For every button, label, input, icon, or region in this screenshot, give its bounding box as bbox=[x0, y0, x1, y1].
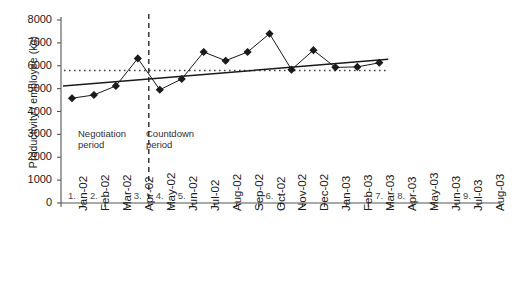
event-marker-7: 7. bbox=[375, 190, 383, 201]
event-marker-6: 6. bbox=[266, 190, 274, 201]
annotation-line-1: Countdown bbox=[146, 128, 194, 139]
data-point-marker bbox=[69, 95, 76, 102]
x-tick-label: Feb-03 bbox=[362, 175, 374, 211]
event-marker-8: 8. bbox=[397, 190, 405, 201]
x-tick-label: Jun-02 bbox=[187, 176, 199, 211]
annotation-line-1: Negotiation bbox=[78, 128, 126, 139]
x-tick-label: Jan-02 bbox=[77, 176, 89, 211]
x-tick-label: May-03 bbox=[428, 173, 440, 211]
event-marker-9: 9. bbox=[463, 190, 471, 201]
annotation-line-2: period bbox=[78, 139, 126, 150]
event-marker-1: 1. bbox=[68, 190, 76, 201]
x-tick-label: Aug-02 bbox=[231, 174, 243, 211]
event-marker-2: 2. bbox=[90, 190, 98, 201]
data-point-marker bbox=[156, 86, 163, 93]
y-tick-label: 5000 bbox=[8, 82, 52, 94]
y-tick-label: 0 bbox=[8, 196, 52, 208]
x-tick-label: Dec-02 bbox=[318, 174, 330, 211]
chart-figure: Productivity / employee (kg) 01000200030… bbox=[0, 0, 520, 288]
x-tick-label: Mar-02 bbox=[121, 175, 133, 211]
y-tick-label: 7000 bbox=[8, 36, 52, 48]
y-tick-label: 1000 bbox=[8, 173, 52, 185]
x-tick-label: Jul-02 bbox=[209, 180, 221, 211]
annotation-line-2: period bbox=[146, 139, 194, 150]
x-tick-label: Feb-02 bbox=[99, 175, 111, 211]
y-tick-label: 6000 bbox=[8, 59, 52, 71]
x-tick-label: Mar-03 bbox=[384, 175, 396, 211]
x-tick-label: Oct-02 bbox=[275, 176, 287, 211]
y-tick-label: 8000 bbox=[8, 13, 52, 25]
y-tick-label: 2000 bbox=[8, 150, 52, 162]
annotation-negotiation: Negotiationperiod bbox=[78, 128, 126, 150]
x-tick-label: Apr-03 bbox=[406, 176, 418, 211]
y-tick-label: 3000 bbox=[8, 127, 52, 139]
event-marker-4: 4. bbox=[156, 190, 164, 201]
x-tick-label: Sep-02 bbox=[253, 174, 265, 211]
data-point-marker bbox=[222, 57, 229, 64]
x-tick-label: Jan-03 bbox=[340, 176, 352, 211]
y-tick-label: 4000 bbox=[8, 105, 52, 117]
x-tick-label: Jul-03 bbox=[472, 180, 484, 211]
x-tick-label: Jun-03 bbox=[450, 176, 462, 211]
event-marker-3: 3. bbox=[134, 190, 142, 201]
data-point-marker bbox=[354, 64, 361, 71]
x-tick-label: Nov-02 bbox=[296, 174, 308, 211]
x-tick-label: Apr-02 bbox=[143, 176, 155, 211]
data-point-marker bbox=[91, 92, 98, 99]
x-tick-label: Aug-03 bbox=[494, 174, 506, 211]
event-marker-5: 5. bbox=[178, 190, 186, 201]
x-tick-label: May-02 bbox=[165, 173, 177, 211]
annotation-countdown: Countdownperiod bbox=[146, 128, 194, 150]
